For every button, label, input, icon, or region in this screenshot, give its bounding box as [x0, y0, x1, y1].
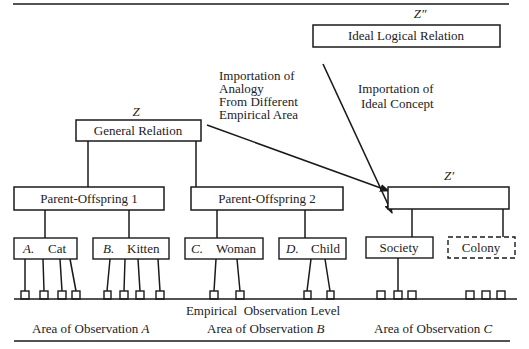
z-double-prime-label: Z″: [414, 6, 427, 21]
leaf-text: Woman: [216, 241, 257, 256]
parent-offspring-2-box: Parent-Offspring 2: [191, 187, 343, 210]
leaf-prefix: D.: [285, 241, 299, 256]
leaf-text: Child: [311, 241, 340, 256]
observation-points: [21, 291, 505, 299]
area-letter: C: [483, 321, 492, 336]
z-prime-box: [388, 187, 509, 209]
area-prefix: Area of Observation: [207, 321, 314, 336]
z-prime-label: Z′: [444, 168, 454, 183]
ideal-concept-annotation-1: Importation of: [358, 81, 434, 96]
area-c-label: Area of Observation C: [374, 321, 492, 336]
area-prefix: Area of Observation: [374, 321, 481, 336]
analogy-annotation-4: Empirical Area: [219, 107, 298, 122]
z-label: Z: [132, 104, 140, 119]
ideal-logical-relation-text: Ideal Logical Relation: [348, 28, 465, 43]
general-relation-text: General Relation: [94, 123, 183, 138]
area-b-label: Area of Observation B: [207, 321, 324, 336]
leaf-box-child: D. Child: [279, 238, 346, 259]
general-relation-box: General Relation: [76, 120, 201, 141]
leaf-box-kitten: B. Kitten: [93, 238, 169, 259]
parent-offspring-1-box: Parent-Offspring 1: [14, 187, 164, 210]
leaf-prefix: C.: [191, 241, 203, 256]
observation-level-label: Empirical Observation Level: [186, 303, 341, 318]
ideal-logical-relation-box: Ideal Logical Relation: [313, 25, 500, 47]
observation-links: [25, 258, 398, 291]
leaf-box-woman: C. Woman: [185, 238, 263, 259]
area-a-label: Area of Observation A: [32, 321, 149, 336]
ideal-concept-annotation-2: Ideal Concept: [361, 96, 434, 111]
leaf-box-society: Society: [366, 237, 433, 258]
area-letter: A: [140, 321, 149, 336]
leaf-box-cat: A. Cat: [14, 238, 77, 259]
concept-diagram: Z″ Ideal Logical Relation Importation of…: [0, 0, 529, 349]
leaf-text: Colony: [462, 240, 501, 255]
leaf-prefix: B.: [103, 241, 114, 256]
leaf-box-colony: Colony: [448, 237, 515, 258]
leaf-prefix: A.: [22, 241, 34, 256]
leaf-text: Kitten: [127, 241, 160, 256]
parent-offspring-1-text: Parent-Offspring 1: [40, 191, 138, 206]
area-letter: B: [316, 321, 324, 336]
leaf-text: Cat: [48, 241, 66, 256]
area-prefix: Area of Observation: [32, 321, 139, 336]
leaf-text: Society: [380, 240, 419, 255]
analogy-arrow: [207, 125, 389, 191]
parent-offspring-2-text: Parent-Offspring 2: [218, 191, 316, 206]
